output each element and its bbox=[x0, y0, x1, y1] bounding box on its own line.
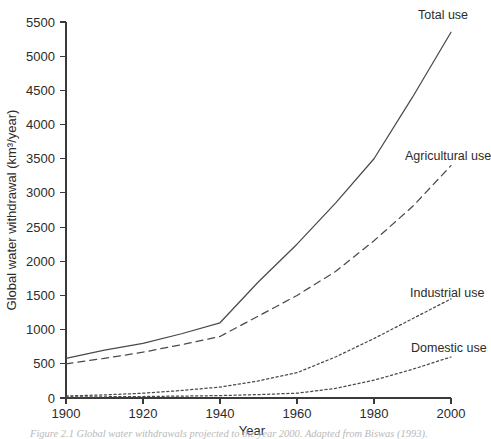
figure-caption: Figure 2.1 Global water withdrawals proj… bbox=[30, 428, 470, 439]
y-tick-label: 4500 bbox=[26, 83, 55, 98]
y-tick-label: 1500 bbox=[26, 288, 55, 303]
y-axis-title: Global water withdrawal (km³/year) bbox=[4, 110, 19, 311]
y-tick-label: 4000 bbox=[26, 117, 55, 132]
y-tick-label: 500 bbox=[33, 356, 55, 371]
series-path-agricultural-use bbox=[66, 166, 451, 364]
x-tick-label: 1940 bbox=[206, 406, 235, 421]
y-tick-label: 0 bbox=[48, 391, 55, 406]
series-label-industrial-use: Industrial use bbox=[410, 286, 484, 300]
y-tick-label: 2000 bbox=[26, 254, 55, 269]
series-label-agricultural-use: Agricultural use bbox=[405, 149, 491, 163]
x-tick-label: 2000 bbox=[437, 406, 466, 421]
x-tick-label: 1960 bbox=[283, 406, 312, 421]
y-tick-label: 3000 bbox=[26, 185, 55, 200]
x-tick-label: 1980 bbox=[360, 406, 389, 421]
series-label-total-use: Total use bbox=[418, 8, 468, 22]
series-label-domestic-use: Domestic use bbox=[411, 341, 487, 355]
y-tick-label: 3500 bbox=[26, 151, 55, 166]
y-tick-label: 1000 bbox=[26, 322, 55, 337]
y-axis-ticks bbox=[60, 22, 66, 398]
series-path-industrial-use bbox=[66, 299, 451, 396]
series-labels: Total use Agricultural use Industrial us… bbox=[405, 8, 491, 355]
y-tick-label: 5500 bbox=[26, 15, 55, 30]
x-tick-label: 1900 bbox=[52, 406, 81, 421]
series-group bbox=[66, 32, 451, 397]
x-tick-label: 1920 bbox=[129, 406, 158, 421]
y-axis-tick-labels: 0 500 1000 1500 2000 2500 3000 3500 4000… bbox=[26, 15, 55, 406]
x-axis-ticks bbox=[66, 398, 451, 404]
series-path-total-use bbox=[66, 32, 451, 358]
y-tick-label: 5000 bbox=[26, 49, 55, 64]
y-tick-label: 2500 bbox=[26, 220, 55, 235]
series-path-domestic-use bbox=[66, 357, 451, 397]
x-axis-tick-labels: 1900 1920 1940 1960 1980 2000 bbox=[52, 406, 466, 421]
